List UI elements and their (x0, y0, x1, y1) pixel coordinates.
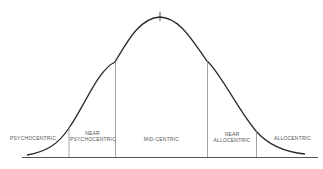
label-near-psychocentric: NEAR PSYCHOCENTRIC (70, 130, 115, 142)
label-psychocentric: PSYCHOCENTRIC (8, 135, 58, 141)
label-allocentric: ALLOCENTRIC (270, 135, 315, 141)
label-near-allocentric: NEAR ALLOCENTRIC (208, 131, 256, 143)
label-midcentric: MID-CENTRIC (116, 136, 207, 142)
bell-curve-diagram (0, 0, 323, 169)
